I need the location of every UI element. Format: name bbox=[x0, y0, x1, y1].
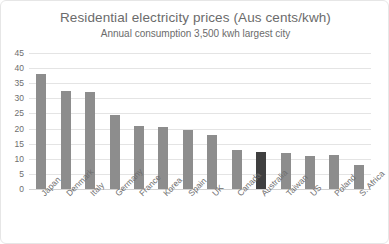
y-axis-tick-label: 0 bbox=[19, 184, 24, 194]
bar-denmark bbox=[61, 91, 71, 189]
bar-uk bbox=[207, 135, 217, 189]
bar-spain bbox=[183, 130, 193, 189]
y-axis-tick-label: 5 bbox=[19, 169, 24, 179]
bar-germany bbox=[110, 115, 120, 189]
y-axis-tick-label: 35 bbox=[15, 78, 24, 88]
y-axis-tick-label: 20 bbox=[15, 124, 24, 134]
chart-card: Residential electricity prices (Aus cent… bbox=[0, 0, 389, 244]
y-axis-tick-label: 40 bbox=[15, 63, 24, 73]
bar-canada bbox=[232, 150, 242, 189]
bar-series bbox=[29, 53, 371, 189]
y-axis-tick-label: 30 bbox=[15, 93, 24, 103]
y-axis-tick-label: 45 bbox=[15, 48, 24, 58]
plot-area bbox=[29, 53, 371, 189]
bar-japan bbox=[36, 74, 46, 189]
y-axis-tick-label: 25 bbox=[15, 108, 24, 118]
y-axis-tick-label: 15 bbox=[15, 139, 24, 149]
chart-subtitle: Annual consumption 3,500 kwh largest cit… bbox=[1, 27, 389, 41]
y-axis-tick-label: 10 bbox=[15, 154, 24, 164]
x-axis: JapanDenmarkItalyGermanyFranceKoreaSpain… bbox=[29, 191, 371, 244]
page-title: Residential electricity prices (Aus cent… bbox=[1, 9, 389, 26]
y-axis: 051015202530354045 bbox=[1, 53, 27, 189]
chart-title-block: Residential electricity prices (Aus cent… bbox=[1, 9, 389, 41]
